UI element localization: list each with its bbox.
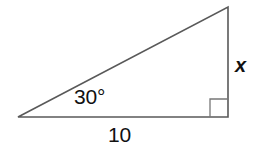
height-variable-label: x: [235, 55, 246, 75]
base-length-label: 10: [108, 124, 131, 145]
right-angle-marker-icon: [210, 99, 228, 117]
triangle-outline: [18, 7, 228, 117]
geometry-figure: 30° 10 x: [0, 0, 254, 156]
angle-label-30: 30°: [74, 86, 105, 107]
